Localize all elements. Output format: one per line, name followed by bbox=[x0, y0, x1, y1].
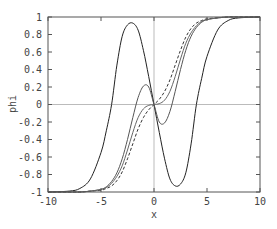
x-axis-label: x bbox=[151, 209, 157, 220]
x-tick-label: -5 bbox=[95, 196, 107, 207]
x-tick-label: 10 bbox=[254, 196, 266, 207]
line-chart: -10-50510 -1-0.8-0.6-0.4-0.200.20.40.60.… bbox=[0, 0, 277, 229]
x-tick-label: 5 bbox=[204, 196, 210, 207]
y-tick-label: 0 bbox=[36, 99, 42, 110]
y-tick-label: -1 bbox=[30, 187, 42, 198]
y-tick-label: 0.4 bbox=[24, 64, 42, 75]
x-tick-label: -10 bbox=[39, 196, 57, 207]
y-tick-label: -0.8 bbox=[18, 169, 42, 180]
x-tick-labels: -10-50510 bbox=[39, 196, 266, 207]
y-tick-label: 1 bbox=[36, 12, 42, 23]
y-tick-label: -0.4 bbox=[18, 134, 42, 145]
y-tick-label: -0.6 bbox=[18, 152, 42, 163]
x-tick-label: 0 bbox=[151, 196, 157, 207]
y-tick-label: 0.6 bbox=[24, 47, 42, 58]
y-tick-label: -0.2 bbox=[18, 117, 42, 128]
y-tick-labels: -1-0.8-0.6-0.4-0.200.20.40.60.81 bbox=[18, 12, 42, 198]
y-tick-label: 0.2 bbox=[24, 82, 42, 93]
y-axis-label: phi bbox=[7, 95, 18, 113]
y-tick-label: 0.8 bbox=[24, 29, 42, 40]
